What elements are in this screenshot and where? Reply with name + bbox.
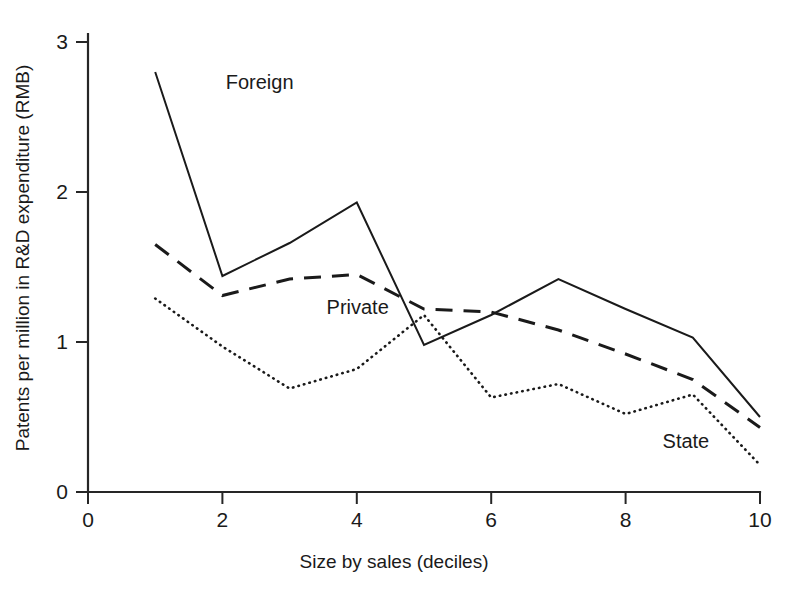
line-chart-plot	[0, 0, 789, 599]
y-tick-label: 0	[40, 480, 68, 504]
x-tick-label: 6	[485, 508, 497, 532]
x-tick-label: 0	[82, 508, 94, 532]
data-series-group	[155, 72, 760, 465]
y-tick-label: 2	[40, 180, 68, 204]
series-line-private	[155, 245, 760, 428]
y-tick-label: 3	[40, 30, 68, 54]
y-axis-title: Patents per million in R&D expenditure (…	[12, 65, 34, 452]
y-tick-label: 1	[40, 330, 68, 354]
series-label-foreign: Foreign	[226, 71, 294, 94]
x-tick-label: 10	[748, 508, 771, 532]
series-label-state: State	[663, 430, 710, 453]
x-tick-label: 2	[217, 508, 229, 532]
series-label-private: Private	[327, 296, 389, 319]
axes-group	[88, 34, 760, 492]
y-axis-ticks	[76, 42, 88, 492]
x-tick-label: 4	[351, 508, 363, 532]
chart-figure: 0246810 0123 ForeignPrivateState Size by…	[0, 0, 789, 599]
series-line-foreign	[155, 72, 760, 417]
x-axis-ticks	[88, 492, 760, 504]
x-tick-label: 8	[620, 508, 632, 532]
x-axis-title: Size by sales (deciles)	[299, 551, 488, 573]
